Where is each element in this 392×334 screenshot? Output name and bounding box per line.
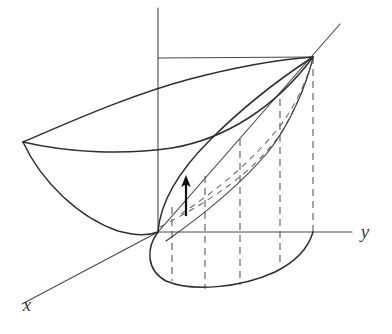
y-axis-label: y bbox=[359, 221, 370, 242]
base-region-curve bbox=[150, 232, 313, 287]
top-rim-back-curve bbox=[23, 57, 313, 142]
x-axis-label: x bbox=[22, 294, 32, 315]
lower-sheet-left-curve bbox=[23, 142, 158, 235]
axes-group bbox=[22, 8, 352, 304]
top-plane-edge bbox=[158, 57, 313, 58]
figure-container: x y bbox=[0, 0, 392, 334]
surface-figure-svg: x y bbox=[0, 0, 392, 334]
projection-lines-group bbox=[172, 57, 313, 289]
surface-outline-group bbox=[23, 57, 313, 287]
